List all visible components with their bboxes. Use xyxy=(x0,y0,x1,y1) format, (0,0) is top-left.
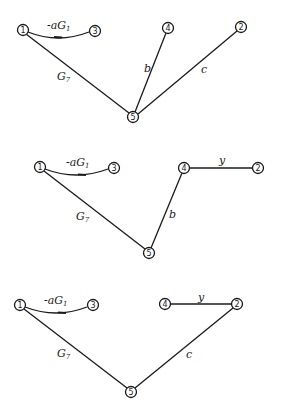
edge-1-5 xyxy=(44,171,145,249)
arrow-icon xyxy=(54,37,62,38)
svg-text:4: 4 xyxy=(181,164,186,173)
node-1: 1 xyxy=(15,300,26,311)
edge-label-g7: G7 xyxy=(57,70,71,84)
svg-text:2: 2 xyxy=(234,300,239,309)
edge-1-5 xyxy=(24,309,127,388)
edge-label-c: c xyxy=(186,348,192,361)
node-4: 4 xyxy=(179,163,190,174)
edge-2-5 xyxy=(135,308,233,388)
svg-text:5: 5 xyxy=(128,388,133,397)
svg-text:2: 2 xyxy=(255,164,260,173)
svg-text:4: 4 xyxy=(165,24,170,33)
node-4: 4 xyxy=(163,23,174,34)
node-2: 2 xyxy=(236,22,247,33)
node-3: 3 xyxy=(90,26,101,37)
graph-diagrams: -aG1 G7 b c 1 3 4 2 5 -aG1 G7 b y 1 3 4 … xyxy=(0,0,284,414)
node-3: 3 xyxy=(88,300,99,311)
edge-label-b: b xyxy=(144,62,151,75)
edge-4-5 xyxy=(151,173,182,248)
node-5: 5 xyxy=(144,248,155,259)
diagram-3: -aG1 G7 y c 1 3 4 2 5 xyxy=(15,291,243,398)
edge-label-neg-a-g1: -aG1 xyxy=(66,156,90,170)
svg-text:2: 2 xyxy=(238,23,243,32)
node-1: 1 xyxy=(18,25,29,36)
edge-label-g7: G7 xyxy=(76,210,90,224)
edge-label-neg-a-g1: -aG1 xyxy=(47,19,71,33)
node-5: 5 xyxy=(128,112,139,123)
arrow-icon xyxy=(78,175,86,176)
arrow-icon xyxy=(58,313,66,314)
svg-text:5: 5 xyxy=(146,249,151,258)
edge-1-3 xyxy=(25,307,87,313)
svg-text:1: 1 xyxy=(17,301,22,310)
edge-label-b: b xyxy=(169,208,176,221)
svg-text:1: 1 xyxy=(20,26,25,35)
node-4: 4 xyxy=(160,299,171,310)
edge-1-3 xyxy=(45,169,108,175)
edge-1-5 xyxy=(26,34,129,113)
svg-text:1: 1 xyxy=(37,163,42,172)
svg-text:3: 3 xyxy=(90,301,95,310)
edge-label-y: y xyxy=(218,154,226,167)
diagram-1: -aG1 G7 b c 1 3 4 2 5 xyxy=(18,19,247,123)
edge-label-neg-a-g1: -aG1 xyxy=(44,294,68,308)
edge-label-g7: G7 xyxy=(57,347,71,361)
node-2: 2 xyxy=(232,299,243,310)
edge-2-5 xyxy=(138,31,237,114)
diagram-2: -aG1 G7 b y 1 3 4 2 5 xyxy=(35,154,264,259)
node-2: 2 xyxy=(253,163,264,174)
edge-label-y: y xyxy=(197,291,205,304)
svg-text:3: 3 xyxy=(92,27,97,36)
edge-label-c: c xyxy=(201,63,207,76)
svg-text:3: 3 xyxy=(111,164,116,173)
svg-text:4: 4 xyxy=(162,300,167,309)
node-1: 1 xyxy=(35,162,46,173)
node-5: 5 xyxy=(126,387,137,398)
svg-text:5: 5 xyxy=(130,113,135,122)
node-3: 3 xyxy=(109,163,120,174)
